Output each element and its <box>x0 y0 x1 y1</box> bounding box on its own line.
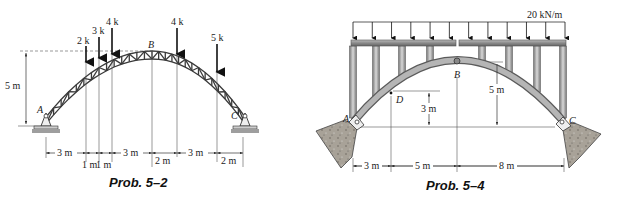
dim-label-2-2: 5 m <box>415 160 431 171</box>
diagram-canvas: 5 m A C B <box>0 0 618 201</box>
truss-diagonal <box>129 54 137 60</box>
abutment-a <box>316 115 364 168</box>
figure-prob-5-4: 20 kN/m B D 3 m 5 m <box>316 9 601 193</box>
dim-label-2-1: 3 m <box>364 160 380 171</box>
deck-post <box>350 46 357 118</box>
load-label-2: 3 k <box>92 25 105 36</box>
point-d-label: D <box>395 94 404 105</box>
point-c-label-2: C <box>569 115 576 126</box>
dim-label-4: 3 m <box>123 147 139 158</box>
b-height-label: 5 m <box>489 84 505 95</box>
deck-post <box>560 46 567 118</box>
distributed-load-label: 20 kN/m <box>527 9 563 20</box>
deck-left <box>351 40 456 46</box>
truss-diagonal <box>114 59 122 64</box>
caption-prob-5-2: Prob. 5–2 <box>109 175 168 190</box>
dim-label-5: 2 m <box>155 155 171 166</box>
load-label-4: 4 k <box>171 16 184 27</box>
pin-support-a <box>32 113 60 133</box>
dim-label-7: 2 m <box>221 155 237 166</box>
dimension-chain-2 <box>353 158 564 172</box>
truss-diagonal <box>179 59 186 64</box>
point-c-label: C <box>231 110 238 121</box>
dim-label-1: 3 m <box>57 147 73 158</box>
point-a-label: A <box>36 104 44 115</box>
caption-prob-5-4: Prob. 5–4 <box>426 178 485 193</box>
truss-diagonal <box>205 78 212 80</box>
truss-diagonal <box>212 78 219 92</box>
truss-diagonal <box>192 68 199 71</box>
truss-diagonal <box>152 51 159 59</box>
d-height-label: 3 m <box>421 103 437 114</box>
load-label-1: 2 k <box>77 35 90 46</box>
truss-diagonal <box>99 68 107 71</box>
load-label-3: 4 k <box>106 16 119 27</box>
deck-post <box>506 46 513 72</box>
truss-diagonal <box>165 54 172 60</box>
abutment-c <box>556 117 601 168</box>
dim-label-6: 3 m <box>188 147 204 158</box>
point-d-marker <box>390 92 393 95</box>
dim-label-2-3: 8 m <box>499 160 515 171</box>
truss-arch <box>46 51 245 124</box>
deck-right <box>459 40 566 46</box>
point-b-label: B <box>148 39 154 50</box>
deck-post <box>373 46 380 96</box>
dim-label-3: 1 m <box>96 159 112 170</box>
truss-diagonal <box>76 78 84 92</box>
distributed-load-arrows <box>353 22 565 38</box>
truss-diagonal <box>144 51 152 59</box>
deck-post <box>534 46 541 92</box>
point-a-label-2: A <box>342 113 350 124</box>
hinge-b <box>454 58 460 64</box>
truss-diagonal <box>84 78 92 80</box>
load-label-5: 5 k <box>211 32 224 43</box>
figure-prob-5-2: 5 m A C B <box>5 16 259 190</box>
rise-label: 5 m <box>5 80 21 91</box>
